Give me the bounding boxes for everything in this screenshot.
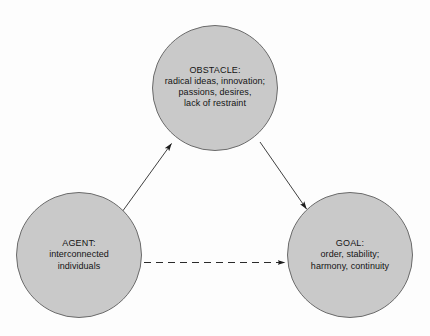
edge-agent-to-obstacle [122,144,172,213]
node-goal-title: GOAL: [311,238,389,249]
node-goal-text: GOAL: order, stability; harmony, continu… [311,238,389,272]
node-agent-text: AGENT: interconnected individuals [49,238,109,272]
edge-obstacle-to-goal [260,142,307,209]
node-obstacle-title: OBSTACLE: [165,65,265,76]
node-goal-line-2: harmony, continuity [311,261,389,272]
node-agent-line-2: individuals [49,261,109,272]
node-agent-title: AGENT: [49,238,109,249]
node-agent[interactable]: AGENT: interconnected individuals [16,192,142,318]
node-agent-line-1: interconnected [49,249,109,260]
node-obstacle-line-1: radical ideas, innovation; [165,76,265,87]
node-obstacle-text: OBSTACLE: radical ideas, innovation; pas… [165,65,265,110]
node-obstacle-line-3: lack of restraint [165,98,265,109]
node-obstacle-line-2: passions, desires, [165,87,265,98]
node-goal-line-1: order, stability; [311,249,389,260]
node-obstacle[interactable]: OBSTACLE: radical ideas, innovation; pas… [152,25,278,151]
node-goal[interactable]: GOAL: order, stability; harmony, continu… [287,192,413,318]
